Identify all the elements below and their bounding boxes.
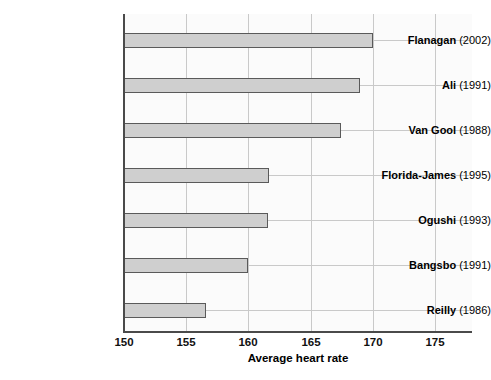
xtick-label-160: 160 xyxy=(228,336,268,348)
bar-ali-1991 xyxy=(124,78,360,93)
y-axis-line xyxy=(123,14,125,332)
category-year: (2002) xyxy=(459,34,491,46)
category-label-flanagan-2002: Flanagan (2002) xyxy=(371,34,491,46)
xtick-label-150: 150 xyxy=(104,336,144,348)
xtick-label-165: 165 xyxy=(291,336,331,348)
xtick-label-175: 175 xyxy=(415,336,455,348)
bar-bangsbo-1991 xyxy=(124,258,248,273)
category-name: Van Gool xyxy=(408,124,456,136)
category-name: Ali xyxy=(442,79,456,91)
category-label-bangsbo-1991: Bangsbo (1991) xyxy=(371,259,491,271)
category-label-reilly-1986: Reilly (1986) xyxy=(371,304,491,316)
category-name: Flanagan xyxy=(408,34,456,46)
category-label-florida-james-1995: Florida-James (1995) xyxy=(371,169,491,181)
xtick-label-170: 170 xyxy=(353,336,393,348)
category-name: Florida-James xyxy=(382,169,457,181)
x-axis-title: Average heart rate xyxy=(124,352,472,364)
category-label-ogushi-1993: Ogushi (1993) xyxy=(371,214,491,226)
category-label-van-gool-1988: Van Gool (1988) xyxy=(371,124,491,136)
figure-container: Flanagan (2002) Ali (1991) Van Gool (198… xyxy=(0,0,491,380)
category-name: Reilly xyxy=(427,304,456,316)
bar-van-gool-1988 xyxy=(124,123,341,138)
bar-reilly-1986 xyxy=(124,303,206,318)
bar-ogushi-1993 xyxy=(124,213,268,228)
x-axis-line xyxy=(123,331,472,333)
gridline-vertical xyxy=(311,14,312,331)
category-year: (1995) xyxy=(459,169,491,181)
category-label-ali-1991: Ali (1991) xyxy=(371,79,491,91)
category-year: (1993) xyxy=(459,214,491,226)
category-year: (1988) xyxy=(459,124,491,136)
bar-flanagan-2002 xyxy=(124,33,373,48)
category-name: Ogushi xyxy=(418,214,456,226)
xtick-label-155: 155 xyxy=(166,336,206,348)
figure-caption xyxy=(2,372,332,380)
bar-florida-james-1995 xyxy=(124,168,269,183)
category-year: (1991) xyxy=(459,259,491,271)
category-year: (1986) xyxy=(459,304,491,316)
category-year: (1991) xyxy=(459,79,491,91)
category-name: Bangsbo xyxy=(409,259,456,271)
